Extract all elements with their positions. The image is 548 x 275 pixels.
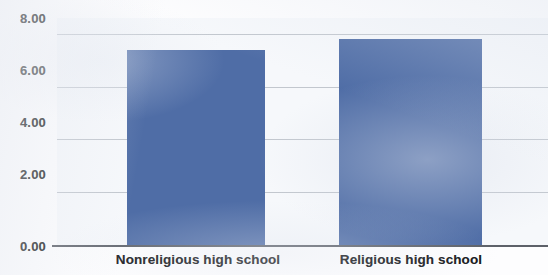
y-tick-label-6: 6.00 — [0, 63, 46, 78]
gridline-8 — [57, 34, 548, 35]
bar-religious-high-school — [339, 39, 482, 245]
y-tick-label-2: 2.00 — [0, 167, 46, 182]
bar-nonreligious-high-school — [127, 50, 265, 245]
x-tick-label-religious-high-school: Religious high school — [336, 252, 486, 267]
y-tick-label-0: 0.00 — [0, 239, 46, 254]
bar-chart-figure: 8.00 6.00 4.00 2.00 0.00 Nonreligious hi… — [0, 0, 548, 275]
x-axis-line-stub — [52, 245, 60, 247]
x-tick-label-nonreligious-high-school: Nonreligious high school — [113, 252, 283, 267]
y-tick-label-8: 8.00 — [0, 11, 46, 26]
plot-area — [57, 18, 548, 245]
x-axis-line — [57, 245, 548, 247]
y-tick-label-4: 4.00 — [0, 115, 46, 130]
